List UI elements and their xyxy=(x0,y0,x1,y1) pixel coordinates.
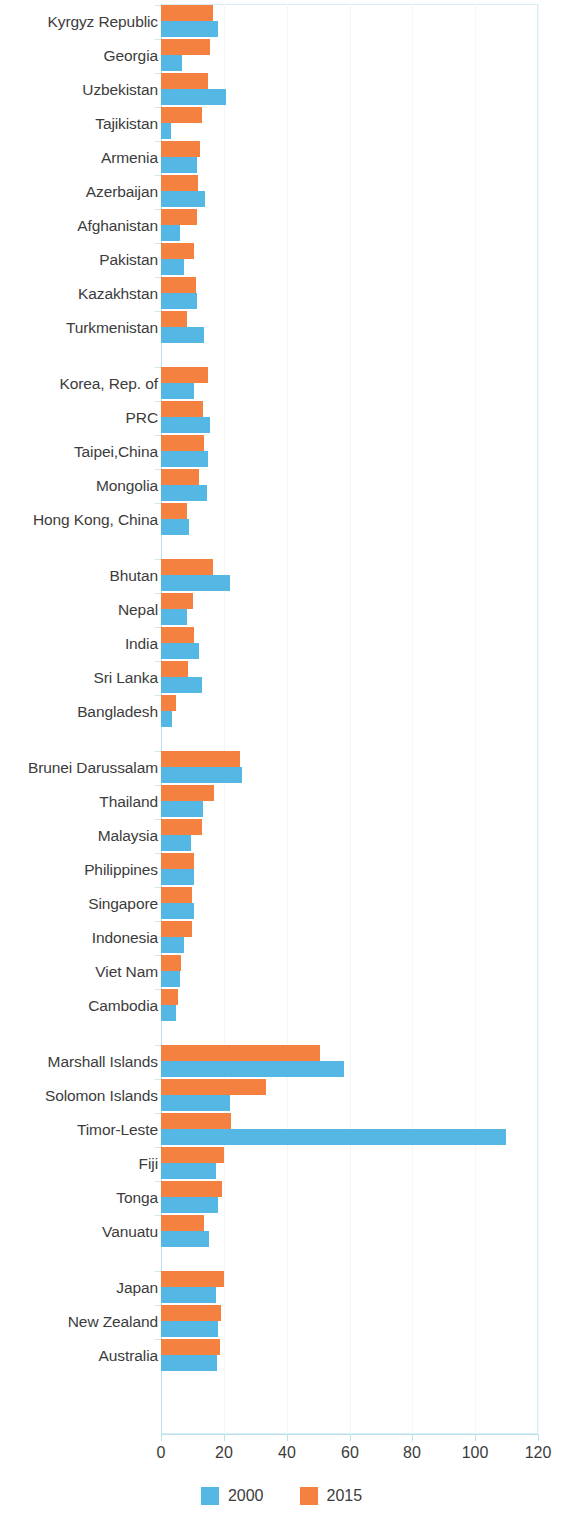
bar-2000 xyxy=(161,519,189,535)
bar-row: Pakistan xyxy=(0,243,563,277)
x-tick-label: 120 xyxy=(525,1444,552,1462)
bar-2015 xyxy=(161,559,213,575)
category-label: PRC xyxy=(126,401,158,435)
bar-row: Japan xyxy=(0,1271,563,1305)
bar-2015 xyxy=(161,1181,222,1197)
bar-2015 xyxy=(161,593,193,609)
bar-row: Afghanistan xyxy=(0,209,563,243)
x-tick-label: 80 xyxy=(403,1444,421,1462)
bar-2015 xyxy=(161,819,202,835)
category-label: Pakistan xyxy=(99,243,158,277)
bar-row: Georgia xyxy=(0,39,563,73)
category-label: Nepal xyxy=(118,593,158,627)
bar-2015 xyxy=(161,107,202,123)
chart-legend: 20002015 xyxy=(0,1482,563,1510)
bar-2015 xyxy=(161,989,178,1005)
bar-2015 xyxy=(161,661,188,677)
bar-row: Vanuatu xyxy=(0,1215,563,1249)
bar-row: PRC xyxy=(0,401,563,435)
bar-row: Brunei Darussalam xyxy=(0,751,563,785)
bar-2000 xyxy=(161,1061,344,1077)
bar-2000 xyxy=(161,711,172,727)
category-label: Kazakhstan xyxy=(78,277,158,311)
bar-2015 xyxy=(161,73,208,89)
category-label: Mongolia xyxy=(96,469,158,503)
legend-swatch-2000 xyxy=(201,1487,219,1505)
category-label: Thailand xyxy=(99,785,158,819)
bar-row: Kazakhstan xyxy=(0,277,563,311)
bar-2015 xyxy=(161,1339,220,1355)
bar-row: Tonga xyxy=(0,1181,563,1215)
bar-2015 xyxy=(161,887,192,903)
bar-2000 xyxy=(161,643,199,659)
bar-2015 xyxy=(161,175,198,191)
bar-row: Taipei,China xyxy=(0,435,563,469)
category-label: Taipei,China xyxy=(74,435,158,469)
bar-row: Singapore xyxy=(0,887,563,921)
legend-swatch-2015 xyxy=(300,1487,318,1505)
bar-2015 xyxy=(161,785,214,801)
bar-2000 xyxy=(161,869,194,885)
bar-2000 xyxy=(161,835,191,851)
bar-row: Thailand xyxy=(0,785,563,819)
legend-label-2015: 2015 xyxy=(327,1487,363,1505)
bar-2000 xyxy=(161,1095,230,1111)
bar-rows-layer: Kyrgyz RepublicGeorgiaUzbekistanTajikist… xyxy=(0,0,563,1440)
category-label: Uzbekistan xyxy=(82,73,158,107)
category-label: Tajikistan xyxy=(95,107,158,141)
legend-item[interactable]: 2000 xyxy=(201,1487,264,1505)
category-label: Georgia xyxy=(104,39,158,73)
bar-2000 xyxy=(161,1287,216,1303)
bar-2000 xyxy=(161,1005,176,1021)
category-label: Fiji xyxy=(139,1147,158,1181)
bar-2015 xyxy=(161,141,200,157)
bar-row: Armenia xyxy=(0,141,563,175)
legend-label-2000: 2000 xyxy=(228,1487,264,1505)
bar-2015 xyxy=(161,751,240,767)
bar-2015 xyxy=(161,695,176,711)
bar-2015 xyxy=(161,853,194,869)
bar-2000 xyxy=(161,451,208,467)
bar-2015 xyxy=(161,435,204,451)
bar-row: Tajikistan xyxy=(0,107,563,141)
bar-2000 xyxy=(161,485,207,501)
bar-2000 xyxy=(161,609,187,625)
bar-2015 xyxy=(161,5,213,21)
category-label: Indonesia xyxy=(92,921,158,955)
bar-2000 xyxy=(161,677,202,693)
bar-2000 xyxy=(161,1321,218,1337)
bar-2000 xyxy=(161,21,218,37)
category-label: Cambodia xyxy=(88,989,158,1023)
bar-2000 xyxy=(161,937,184,953)
category-label: Philippines xyxy=(84,853,158,887)
bar-2000 xyxy=(161,575,230,591)
bar-row: Timor-Leste xyxy=(0,1113,563,1147)
bar-2015 xyxy=(161,367,208,383)
category-label: Vanuatu xyxy=(102,1215,158,1249)
bar-row: Uzbekistan xyxy=(0,73,563,107)
legend-item[interactable]: 2015 xyxy=(300,1487,363,1505)
bar-2000 xyxy=(161,383,194,399)
bar-2000 xyxy=(161,259,184,275)
category-label: Turkmenistan xyxy=(66,311,158,345)
bar-row: Korea, Rep. of xyxy=(0,367,563,401)
bar-row: Mongolia xyxy=(0,469,563,503)
category-label: Viet Nam xyxy=(95,955,158,989)
bar-2000 xyxy=(161,1197,218,1213)
category-label: Kyrgyz Republic xyxy=(48,5,159,39)
x-tick-label: 60 xyxy=(341,1444,359,1462)
bar-2015 xyxy=(161,469,199,485)
bar-2015 xyxy=(161,921,192,937)
x-tick-label: 100 xyxy=(462,1444,489,1462)
category-label: Solomon Islands xyxy=(45,1079,158,1113)
category-label: Tonga xyxy=(116,1181,158,1215)
category-label: Japan xyxy=(116,1271,158,1305)
bar-row: Sri Lanka xyxy=(0,661,563,695)
bar-row: Bangladesh xyxy=(0,695,563,729)
bar-2000 xyxy=(161,225,180,241)
bar-2015 xyxy=(161,1271,224,1287)
x-tick-label: 20 xyxy=(215,1444,233,1462)
bar-2000 xyxy=(161,1163,216,1179)
bar-2000 xyxy=(161,55,182,71)
bar-2015 xyxy=(161,401,203,417)
